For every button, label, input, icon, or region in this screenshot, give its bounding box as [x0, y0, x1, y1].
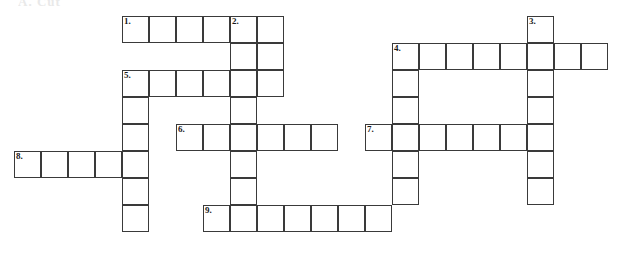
crossword-cell[interactable] [338, 205, 365, 232]
clue-number: 5. [124, 70, 131, 80]
crossword-cell[interactable] [311, 124, 338, 151]
crossword-cell[interactable] [284, 205, 311, 232]
crossword-cell[interactable] [257, 16, 284, 43]
crossword-cell[interactable] [203, 70, 230, 97]
clue-number: 8. [16, 151, 23, 161]
clue-number: 1. [124, 16, 131, 26]
crossword-cell[interactable] [230, 178, 257, 205]
crossword-cell[interactable] [392, 151, 419, 178]
crossword-cell-numbered[interactable]: 8. [14, 151, 41, 178]
clue-number: 9. [205, 205, 212, 215]
crossword-cell[interactable] [284, 124, 311, 151]
crossword-cell[interactable] [230, 151, 257, 178]
crossword-cell[interactable] [473, 43, 500, 70]
crossword-cell[interactable] [473, 124, 500, 151]
crossword-cell[interactable] [500, 124, 527, 151]
crossword-puzzle: A. Cut 1.2.3.4.5.6.7.8.9. [0, 0, 635, 253]
crossword-cell[interactable] [500, 43, 527, 70]
crossword-cell-numbered[interactable]: 2. [230, 16, 257, 43]
crossword-cell[interactable] [41, 151, 68, 178]
crossword-cell[interactable] [257, 70, 284, 97]
crossword-cell[interactable] [230, 205, 257, 232]
crossword-cell[interactable] [230, 97, 257, 124]
crossword-cell[interactable] [95, 151, 122, 178]
crossword-cell[interactable] [149, 16, 176, 43]
crossword-cell[interactable] [122, 205, 149, 232]
crossword-cell[interactable] [122, 97, 149, 124]
clue-number: 7. [367, 124, 374, 134]
crossword-cell[interactable] [122, 151, 149, 178]
crossword-cell[interactable] [527, 97, 554, 124]
crossword-cell[interactable] [392, 178, 419, 205]
crossword-cell[interactable] [554, 43, 581, 70]
crossword-cell[interactable] [176, 16, 203, 43]
crossword-cell[interactable] [419, 43, 446, 70]
crossword-cell[interactable] [149, 70, 176, 97]
crossword-cell[interactable] [419, 124, 446, 151]
crossword-cell[interactable] [527, 43, 554, 70]
crossword-cell[interactable] [527, 70, 554, 97]
crossword-cell[interactable] [230, 70, 257, 97]
crossword-cell-numbered[interactable]: 1. [122, 16, 149, 43]
crossword-cell-numbered[interactable]: 7. [365, 124, 392, 151]
crossword-cell[interactable] [257, 124, 284, 151]
crossword-cell[interactable] [392, 97, 419, 124]
crossword-cell-numbered[interactable]: 9. [203, 205, 230, 232]
crossword-cell[interactable] [392, 124, 419, 151]
crossword-cell[interactable] [446, 124, 473, 151]
clue-number: 6. [178, 124, 185, 134]
crossword-cell[interactable] [122, 124, 149, 151]
crossword-cell[interactable] [311, 205, 338, 232]
crossword-cell[interactable] [257, 205, 284, 232]
crossword-cell-numbered[interactable]: 3. [527, 16, 554, 43]
clue-number: 2. [232, 16, 239, 26]
crossword-cell[interactable] [581, 43, 608, 70]
crossword-cell[interactable] [365, 205, 392, 232]
crossword-cell[interactable] [230, 124, 257, 151]
crossword-cell[interactable] [203, 16, 230, 43]
clue-number: 4. [394, 43, 401, 53]
crossword-cell[interactable] [527, 151, 554, 178]
clue-number: 3. [529, 16, 536, 26]
crossword-grid[interactable]: 1.2.3.4.5.6.7.8.9. [0, 0, 635, 253]
crossword-cell[interactable] [392, 70, 419, 97]
crossword-cell[interactable] [527, 178, 554, 205]
crossword-cell[interactable] [257, 43, 284, 70]
crossword-cell-numbered[interactable]: 6. [176, 124, 203, 151]
crossword-cell-numbered[interactable]: 5. [122, 70, 149, 97]
crossword-cell[interactable] [446, 43, 473, 70]
crossword-cell[interactable] [203, 124, 230, 151]
crossword-cell[interactable] [68, 151, 95, 178]
crossword-cell[interactable] [527, 124, 554, 151]
crossword-cell[interactable] [122, 178, 149, 205]
crossword-cell[interactable] [176, 70, 203, 97]
crossword-cell-numbered[interactable]: 4. [392, 43, 419, 70]
crossword-cell[interactable] [230, 43, 257, 70]
